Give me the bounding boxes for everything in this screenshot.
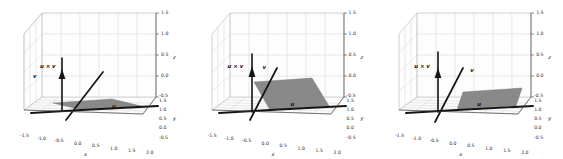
xtick-label: -1.0	[225, 137, 234, 142]
ztick-label: 1.0	[349, 32, 356, 37]
ytick-label: 0.0	[347, 126, 354, 131]
xtick-label: -1.5	[208, 134, 217, 139]
ytick-label: 0.0	[159, 126, 166, 131]
xtick-label: 1.0	[298, 147, 305, 152]
xtick-label: 0.0	[262, 142, 269, 147]
xtick-label: 0.5	[467, 144, 474, 149]
ztick-label: 1.5	[349, 11, 356, 16]
axes-3d-1: -1.5 -1.0 -0.5 0.0 0.5 1.0 1.5 2.0 1.5 1…	[0, 0, 188, 159]
axis-ticks-marks-2	[344, 13, 347, 97]
axes-3d-3: -1.5 -1.0 -0.5 0.0 0.5 1.0 1.5 2.0 1.5 1…	[375, 0, 563, 159]
plot-panel-3: -1.5 -1.0 -0.5 0.0 0.5 1.0 1.5 2.0 1.5 1…	[375, 0, 563, 159]
xtick-label: 0.5	[280, 144, 287, 149]
ytick-label: -0.5	[534, 136, 543, 141]
ytick-label: 1.0	[159, 108, 166, 113]
vector-label-u: u	[477, 102, 481, 107]
plot-panel-1: -1.5 -1.0 -0.5 0.0 0.5 1.0 1.5 2.0 1.5 1…	[0, 0, 188, 159]
ytick-label: 0.5	[159, 117, 166, 122]
ytick-label: -0.5	[159, 136, 168, 141]
ztick-label: 0.5	[349, 53, 356, 58]
ytick-label: 1.5	[347, 99, 354, 104]
ztick-label: -0.5	[347, 94, 356, 99]
vector-label-u-cross-v: u × v	[40, 64, 56, 69]
xtick-label: -0.5	[430, 139, 439, 144]
xtick-label: 2.0	[521, 151, 528, 156]
ytick-label: 0.0	[534, 126, 541, 131]
xtick-label: 0.0	[74, 142, 81, 147]
z-axis-title: z	[361, 55, 364, 60]
xtick-label: 1.0	[110, 147, 117, 152]
ytick-label: 0.5	[347, 117, 354, 122]
ztick-label: 0.0	[536, 74, 543, 79]
axes-3d-2: -1.5 -1.0 -0.5 0.0 0.5 1.0 1.5 2.0 1.5 1…	[188, 0, 376, 159]
ytick-label: 0.5	[534, 117, 541, 122]
ztick-label: -0.5	[159, 94, 168, 99]
y-axis-title: y	[173, 116, 176, 121]
xtick-label: -1.0	[37, 137, 46, 142]
vector-label-v: v	[33, 74, 37, 79]
ztick-label: 0.5	[161, 53, 168, 58]
figure-cross-product-panels: -1.5 -1.0 -0.5 0.0 0.5 1.0 1.5 2.0 1.5 1…	[0, 0, 563, 159]
xtick-label: 1.5	[128, 149, 135, 154]
axis-ticks-marks-3	[531, 13, 534, 97]
vector-label-v: v	[263, 65, 267, 70]
xtick-label: 1.5	[316, 149, 323, 154]
ztick-label: 0.0	[349, 74, 356, 79]
ztick-label: 1.5	[536, 11, 543, 16]
xtick-label: -1.5	[395, 134, 404, 139]
vector-label-v: v	[470, 68, 474, 73]
xtick-label: 2.0	[146, 151, 153, 156]
ytick-label: 1.5	[534, 99, 541, 104]
xtick-label: 1.5	[503, 149, 510, 154]
xtick-label: -1.5	[20, 134, 29, 139]
vector-label-u: u	[291, 102, 295, 107]
y-axis-title: y	[361, 116, 364, 121]
vector-label-u-cross-v: u × v	[414, 64, 430, 69]
xtick-label: 0.5	[92, 144, 99, 149]
z-axis-title: z	[548, 55, 551, 60]
x-axis-title: x	[84, 152, 87, 157]
ytick-label: -0.5	[347, 136, 356, 141]
vector-label-u: u	[112, 104, 116, 109]
axis-ticks-marks-1	[156, 13, 159, 97]
ztick-label: 1.5	[161, 11, 168, 16]
plot-panel-2: -1.5 -1.0 -0.5 0.0 0.5 1.0 1.5 2.0 1.5 1…	[188, 0, 376, 159]
xtick-label: 2.0	[334, 151, 341, 156]
x-axis-title: x	[272, 152, 275, 157]
x-axis-title: x	[459, 152, 462, 157]
xtick-label: -1.0	[412, 137, 421, 142]
xtick-label: -0.5	[242, 139, 251, 144]
ztick-label: -0.5	[534, 94, 543, 99]
xtick-label: -0.5	[55, 139, 64, 144]
xtick-label: 0.0	[449, 142, 456, 147]
y-axis-title: y	[548, 116, 551, 121]
vector-label-u-cross-v: u × v	[228, 64, 244, 69]
z-axis-title: z	[173, 55, 176, 60]
ztick-label: 1.0	[161, 32, 168, 37]
ytick-label: 1.0	[347, 108, 354, 113]
ztick-label: 0.0	[161, 74, 168, 79]
ytick-label: 1.5	[159, 99, 166, 104]
ztick-label: 1.0	[536, 32, 543, 37]
ytick-label: 1.0	[534, 108, 541, 113]
ztick-label: 0.5	[536, 53, 543, 58]
xtick-label: 1.0	[485, 147, 492, 152]
